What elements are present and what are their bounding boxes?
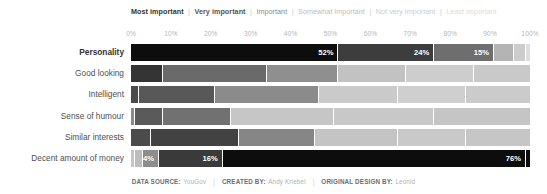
legend-separator: | (435, 7, 446, 17)
footer-key: ORIGINAL DESIGN BY: (321, 178, 393, 185)
bar-segment-value: 16% (203, 150, 218, 167)
bar-segment[interactable] (163, 108, 231, 125)
x-axis-tick-40: 40% (284, 30, 298, 37)
category-label-similar-interests: Similar interests (0, 129, 124, 146)
x-axis-tick-20: 20% (204, 30, 218, 37)
bar-segment[interactable] (163, 65, 267, 82)
bar-segment[interactable] (231, 108, 335, 125)
chart-row: Decent amount of money4%16%76% (0, 150, 547, 171)
footer-key: CREATED BY: (222, 178, 266, 185)
legend-item-very-important[interactable]: Very important (194, 7, 245, 17)
bar-segment[interactable] (474, 65, 530, 82)
legend-item-important[interactable]: Important (256, 7, 287, 17)
bar-segment[interactable] (434, 108, 530, 125)
category-label-good-looking: Good looking (0, 65, 124, 82)
stacked-bar (131, 108, 530, 125)
bar-segment[interactable] (494, 44, 514, 61)
bar-segment[interactable] (466, 86, 530, 103)
chart-root: Most important|Very important|Important|… (0, 0, 547, 194)
bar-segment[interactable] (135, 150, 143, 167)
bar-segment[interactable] (338, 65, 406, 82)
bar-segment[interactable] (315, 129, 399, 146)
stacked-bar (131, 129, 530, 146)
footer-value: YouGov (181, 178, 207, 185)
footer-separator: | (206, 178, 222, 185)
bar-segment[interactable] (151, 129, 239, 146)
footer-value: Leonid (393, 178, 415, 185)
chart-row: Good looking (0, 65, 547, 86)
bar-segment[interactable] (319, 86, 399, 103)
x-axis-tick-70: 70% (404, 30, 418, 37)
bar-segment[interactable] (267, 65, 339, 82)
legend-separator: | (184, 7, 195, 17)
chart-row: Intelligent (0, 86, 547, 107)
bar-segment[interactable] (466, 129, 530, 146)
bar-segment[interactable]: 24% (338, 44, 434, 61)
stacked-bar (131, 65, 530, 82)
bar-segment[interactable]: 15% (434, 44, 494, 61)
chart-row: Sense of humour (0, 108, 547, 129)
stacked-bar (131, 86, 530, 103)
category-label-intelligent: Intelligent (0, 86, 124, 103)
footer-key: DATA SOURCE: (132, 178, 181, 185)
stacked-bar: 52%24%15% (131, 44, 530, 61)
bar-segment[interactable] (526, 150, 530, 167)
bar-segment-value: 4% (143, 150, 154, 167)
plot-area: Personality52%24%15%Good lookingIntellig… (0, 44, 547, 172)
chart-footer: DATA SOURCE:YouGov|CREATED BY:Andy Krieb… (0, 178, 547, 185)
chart-row: Personality52%24%15% (0, 44, 547, 65)
x-axis-tick-90: 90% (483, 30, 497, 37)
bar-segment-value: 52% (318, 44, 333, 61)
bar-segment[interactable] (334, 108, 434, 125)
bar-segment[interactable] (406, 65, 474, 82)
bar-segment[interactable]: 76% (223, 150, 526, 167)
footer-value: Andy Kriebel (266, 178, 306, 185)
x-axis-tick-30: 30% (244, 30, 258, 37)
bar-segment[interactable]: 52% (131, 44, 338, 61)
bar-segment[interactable] (139, 86, 215, 103)
bar-segment[interactable] (131, 65, 163, 82)
legend-item-somewhat-important[interactable]: Somewhat important (298, 7, 365, 17)
x-axis-tick-0: 0% (126, 30, 136, 37)
footer-separator: | (306, 178, 322, 185)
bar-segment[interactable] (526, 44, 530, 61)
x-axis-tick-50: 50% (324, 30, 338, 37)
bar-segment[interactable] (131, 86, 139, 103)
bar-segment-value: 24% (414, 44, 429, 61)
category-label-decent-amount-of-money: Decent amount of money (0, 150, 124, 167)
x-axis: 0%10%20%30%40%50%60%70%80%90%100% (131, 30, 530, 40)
chart-legend: Most important|Very important|Important|… (131, 7, 531, 17)
category-label-personality: Personality (0, 44, 124, 61)
legend-item-most-important[interactable]: Most important (131, 7, 184, 17)
legend-separator: | (287, 7, 298, 17)
x-axis-tick-100: 100% (521, 30, 538, 37)
stacked-bar: 4%16%76% (131, 150, 530, 167)
bar-segment[interactable] (131, 129, 151, 146)
x-axis-tick-80: 80% (443, 30, 457, 37)
category-label-sense-of-humour: Sense of humour (0, 108, 124, 125)
bar-segment[interactable]: 4% (143, 150, 159, 167)
bar-segment-value: 15% (474, 44, 489, 61)
bar-segment[interactable] (135, 108, 163, 125)
x-axis-tick-60: 60% (364, 30, 378, 37)
legend-separator: | (246, 7, 257, 17)
bar-segment-value: 76% (506, 150, 521, 167)
bar-segment[interactable] (398, 129, 466, 146)
legend-item-not-very-important[interactable]: Not very important (376, 7, 436, 17)
x-axis-tick-10: 10% (164, 30, 178, 37)
legend-item-least-important[interactable]: Least important (446, 7, 496, 17)
bar-segment[interactable] (398, 86, 466, 103)
legend-separator: | (365, 7, 376, 17)
chart-row: Similar interests (0, 129, 547, 150)
bar-segment[interactable]: 16% (159, 150, 223, 167)
bar-segment[interactable] (215, 86, 319, 103)
bar-segment[interactable] (239, 129, 315, 146)
bar-segment[interactable] (514, 44, 526, 61)
